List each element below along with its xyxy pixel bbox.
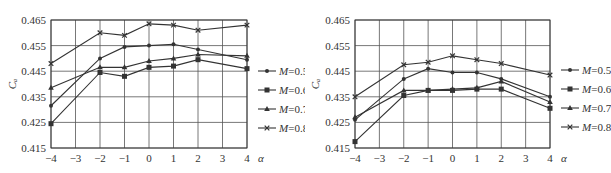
chart-right-plot: 0.4150.4250.4350.4450.4550.465Cₐ−4−3−2−1… (305, 0, 611, 173)
data-point-square-icon (245, 66, 250, 71)
y-tick-label: 0.445 (325, 65, 350, 77)
y-tick-label: 0.425 (325, 116, 350, 128)
x-tick-label: −1 (119, 152, 131, 164)
chart-left-plot: 0.4150.4250.4350.4450.4550.465Cₐ−4−3−2−1… (0, 0, 305, 173)
data-point-dot-icon (98, 56, 102, 60)
legend-item: M=0.7 (561, 102, 611, 114)
data-point-square-icon (499, 87, 504, 92)
data-point-dot-icon (245, 58, 249, 62)
x-tick-label: 2 (195, 152, 201, 164)
data-point-dot-icon (426, 67, 430, 71)
chart-right-grid (355, 20, 550, 148)
data-point-square-icon (147, 65, 152, 70)
legend-item: M=0.6 (258, 84, 305, 96)
y-tick-label: 0.435 (21, 91, 46, 103)
x-tick-label: 3 (523, 152, 529, 164)
legend-item: M=0.8 (561, 121, 611, 133)
data-point-dot-icon (49, 104, 53, 108)
x-tick-label: −1 (422, 152, 434, 164)
chart-left-y-axis: 0.4150.4250.4350.4450.4550.465Cₐ (6, 14, 47, 154)
y-tick-label: 0.415 (21, 142, 46, 154)
data-point-dot-icon (147, 44, 151, 48)
x-tick-label: 0 (450, 152, 456, 164)
legend-label: M=0.8 (278, 122, 305, 134)
legend-dot-icon (265, 69, 269, 73)
legend-label: M=0.7 (581, 102, 611, 114)
legend-item: M=0.5 (561, 64, 611, 76)
x-tick-label: −4 (349, 152, 361, 164)
legend-label: M=0.6 (278, 84, 305, 96)
x-tick-label: 1 (474, 152, 480, 164)
data-point-dot-icon (451, 70, 455, 74)
legend-label: M=0.5 (581, 64, 611, 76)
legend-item: M=0.7 (258, 103, 305, 115)
data-point-square-icon (122, 74, 127, 79)
data-point-dot-icon (196, 47, 200, 51)
data-point-dot-icon (172, 42, 176, 46)
legend-dot-icon (568, 68, 572, 72)
x-tick-label: −2 (398, 152, 410, 164)
data-point-square-icon (49, 121, 54, 126)
y-tick-label: 0.435 (325, 91, 350, 103)
data-point-dot-icon (475, 70, 479, 74)
data-point-dot-icon (123, 45, 127, 49)
y-tick-label: 0.445 (21, 65, 46, 77)
legend-label: M=0.5 (278, 65, 305, 77)
legend-item: M=0.5 (258, 65, 305, 77)
legend-label: M=0.8 (581, 121, 611, 133)
x-tick-label: 1 (171, 152, 177, 164)
x-tick-label: −2 (94, 152, 106, 164)
x-tick-label: 4 (244, 152, 250, 164)
x-tick-label: 4 (547, 152, 553, 164)
chart-left-x-axis: −4−3−2−101234α (45, 152, 264, 164)
y-tick-label: 0.425 (21, 116, 46, 128)
y-tick-label: 0.455 (21, 40, 46, 52)
data-point-square-icon (196, 57, 201, 62)
data-point-square-icon (401, 93, 406, 98)
chart-right-y-axis-label: Cₐ (309, 79, 321, 90)
chart-left-y-axis-label: Cₐ (6, 79, 18, 90)
chart-left: 0.4150.4250.4350.4450.4550.465Cₐ−4−3−2−1… (0, 0, 305, 173)
data-point-square-icon (353, 139, 358, 144)
x-tick-label: 2 (499, 152, 505, 164)
legend-label: M=0.6 (581, 83, 611, 95)
data-point-square-icon (548, 106, 553, 111)
legend-label: M=0.7 (278, 103, 305, 115)
y-tick-label: 0.455 (325, 40, 350, 52)
x-tick-label: 3 (220, 152, 226, 164)
y-tick-label: 0.465 (325, 14, 350, 26)
chart-right-legend: M=0.5M=0.6M=0.7M=0.8 (561, 64, 611, 133)
chart-right: 0.4150.4250.4350.4450.4550.465Cₐ−4−3−2−1… (305, 0, 611, 173)
legend-item: M=0.6 (561, 83, 611, 95)
y-tick-label: 0.415 (325, 142, 350, 154)
data-point-dot-icon (402, 77, 406, 81)
data-point-square-icon (171, 64, 176, 69)
chart-left-grid (51, 20, 247, 148)
x-tick-label: 0 (146, 152, 152, 164)
x-tick-label: −3 (70, 152, 82, 164)
legend-item: M=0.8 (258, 122, 305, 134)
x-tick-label: −3 (374, 152, 386, 164)
data-point-dot-icon (548, 95, 552, 99)
chart-right-y-axis: 0.4150.4250.4350.4450.4550.465Cₐ (309, 14, 351, 154)
chart-left-x-axis-label: α (258, 152, 264, 164)
y-tick-label: 0.465 (21, 14, 46, 26)
legend-square-icon (265, 88, 270, 93)
chart-right-x-axis: −4−3−2−101234α (349, 152, 567, 164)
data-point-square-icon (98, 70, 103, 75)
data-point-triangle-icon (195, 52, 201, 57)
x-tick-label: −4 (45, 152, 57, 164)
chart-left-legend: M=0.5M=0.6M=0.7M=0.8 (258, 65, 305, 134)
legend-square-icon (568, 87, 573, 92)
chart-right-x-axis-label: α (561, 152, 567, 164)
